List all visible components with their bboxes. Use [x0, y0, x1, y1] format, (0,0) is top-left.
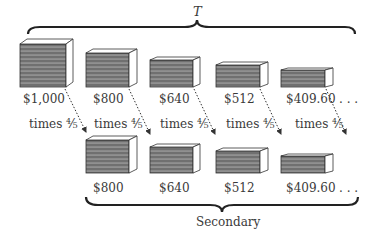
bottom-value-4: $409.60 — [286, 181, 336, 195]
top-value-5: $409.60 — [286, 92, 336, 106]
top-box-4 — [216, 62, 268, 87]
bottom-brace — [86, 197, 358, 212]
multiplier-label-4: times ⅘ — [226, 117, 275, 131]
top-box-5 — [281, 68, 333, 87]
bottom-value-3: $512 — [224, 181, 255, 195]
top-brace-label: T — [193, 4, 202, 19]
top-box-2 — [86, 49, 137, 87]
top-box-3 — [150, 57, 200, 87]
top-brace — [28, 20, 355, 34]
top-value-3: $640 — [159, 92, 190, 106]
top-box-1 — [20, 39, 73, 87]
multiplier-label-2: times ⅘ — [94, 117, 143, 131]
bottom-box-2 — [150, 144, 200, 173]
multiplier-label-5: times ⅘ — [295, 117, 344, 131]
top-value-2: $800 — [93, 92, 124, 106]
bottom-value-2: $640 — [159, 181, 190, 195]
bottom-box-3 — [216, 148, 268, 173]
top-value-1: $1,000 — [23, 92, 65, 106]
bottom-brace-label: Secondary — [196, 215, 260, 229]
bottom-ellipsis: . . . — [339, 181, 358, 195]
multiplier-label-1: times ⅘ — [29, 117, 78, 131]
bottom-box-4 — [281, 154, 333, 173]
top-value-4: $512 — [224, 92, 255, 106]
top-ellipsis: . . . — [339, 92, 358, 106]
bottom-box-1 — [86, 136, 137, 173]
multiplier-label-3: times ⅘ — [160, 117, 209, 131]
diagram-canvas: T $1,000 $800 $640 $512 $409.60 . . . ti… — [0, 0, 381, 233]
bottom-value-1: $800 — [93, 181, 124, 195]
